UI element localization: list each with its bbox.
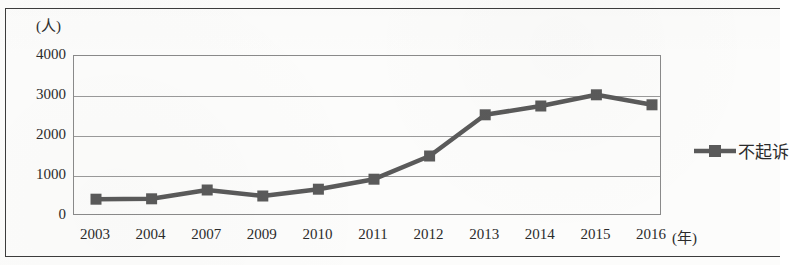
legend-marker-icon — [694, 144, 736, 158]
data-point-marker: 2012: 1500 — [424, 151, 435, 162]
data-point-marker: 2011: 920 — [369, 174, 380, 185]
data-point-marker: 2007: 650 — [202, 185, 213, 196]
data-point-marker: 2009: 500 — [257, 191, 268, 202]
y-axis-tick-label: 0 — [20, 207, 66, 222]
x-axis-tick-label: 2014 — [525, 226, 555, 243]
y-axis-tick-label: 3000 — [20, 87, 66, 102]
data-point-marker: 2004: 430 — [146, 193, 157, 204]
y-axis-tick-label: 4000 — [20, 47, 66, 62]
data-point-marker: 2016: 2780 — [647, 99, 658, 110]
x-axis-tick-label: 2003 — [80, 226, 110, 243]
x-axis-tick-label: 2011 — [358, 226, 387, 243]
x-axis-tick-label: 2013 — [469, 226, 499, 243]
data-point-marker: 2013: 2530 — [480, 109, 491, 120]
x-axis-unit-label: (年) — [672, 226, 697, 247]
x-axis-tick-label: 2015 — [580, 226, 610, 243]
series-not-prosecuted: 2003: 4202004: 4302007: 6502009: 5002010… — [74, 56, 662, 216]
y-axis-tick-label: 2000 — [20, 127, 66, 142]
x-axis-tick-label: 2007 — [191, 226, 221, 243]
x-axis-tick-label: 2012 — [414, 226, 444, 243]
data-point-marker: 2003: 420 — [91, 194, 102, 205]
y-axis-tick-label: 1000 — [20, 167, 66, 182]
data-point-marker: 2014: 2750 — [535, 101, 546, 112]
chart-legend: 不起诉 — [694, 138, 789, 163]
legend-item-label: 不起诉 — [738, 138, 789, 163]
x-axis-tick-label: 2009 — [247, 226, 277, 243]
x-axis-tick-label: 2004 — [136, 226, 166, 243]
x-axis-tick-label: 2016 — [636, 226, 666, 243]
plot-area: 2003: 4202004: 4302007: 6502009: 5002010… — [73, 55, 661, 215]
x-axis-tick-labels: 2003200420072009201020112012201320142015… — [0, 226, 780, 250]
data-point-marker: 2010: 670 — [313, 184, 324, 195]
x-axis-tick-label: 2010 — [302, 226, 332, 243]
data-point-marker: 2015: 3030 — [591, 89, 602, 100]
